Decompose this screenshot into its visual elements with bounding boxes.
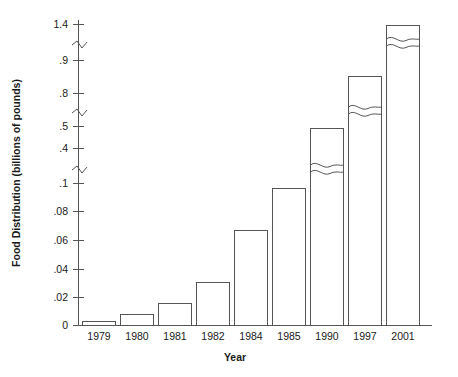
bar-1984[interactable] [235, 231, 268, 326]
y-tick-label-5: .5 [59, 120, 68, 132]
bar-chart: 0 .02 .04 .06 .08 .1 .4 .5 .8 .9 1.4 [0, 0, 458, 377]
x-label-1981: 1981 [163, 330, 187, 342]
x-label-1984: 1984 [239, 330, 263, 342]
y-tick-label-04: .04 [53, 263, 68, 275]
bar-1981[interactable] [159, 304, 192, 326]
x-label-1980: 1980 [125, 330, 149, 342]
bar-2001[interactable] [387, 26, 420, 326]
bar-1980[interactable] [121, 315, 154, 326]
y-tick-label-1: .1 [59, 177, 68, 189]
bar-2001-group [387, 26, 420, 326]
y-tick-label-4: .4 [59, 142, 68, 154]
chart-container: 0 .02 .04 .06 .08 .1 .4 .5 .8 .9 1.4 [0, 0, 458, 377]
axis-break-icon-2 [72, 109, 87, 116]
axis-break-icon-1 [72, 166, 87, 173]
bar-1979[interactable] [83, 322, 116, 326]
y-tick-label-06: .06 [53, 234, 68, 246]
y-tick-label-0: 0 [62, 319, 68, 331]
y-tick-label-9: .9 [59, 54, 68, 66]
bar-1990-group [311, 129, 344, 326]
x-label-1990: 1990 [315, 330, 339, 342]
y-tick-labels: 0 .02 .04 .06 .08 .1 .4 .5 .8 .9 1.4 [53, 18, 68, 331]
y-tick-label-8: .8 [59, 87, 68, 99]
y-tick-label-14: 1.4 [53, 18, 68, 30]
x-label-1985: 1985 [277, 330, 301, 342]
y-axis-title: Food Distribution (billions of pounds) [10, 79, 22, 267]
x-label-2001: 2001 [391, 330, 415, 342]
bar-1985[interactable] [273, 189, 306, 326]
bar-1990[interactable] [311, 129, 344, 326]
x-label-1979: 1979 [87, 330, 111, 342]
x-label-1997: 1997 [353, 330, 377, 342]
x-axis-title: Year [224, 351, 246, 363]
y-tick-label-08: .08 [53, 205, 68, 217]
x-tick-labels: 1979 1980 1981 1982 1984 1985 1990 1997 … [87, 330, 415, 342]
bar-1997-group [349, 77, 382, 326]
bars-group [83, 26, 420, 326]
axis-break-icon-3 [72, 41, 87, 48]
bar-1982[interactable] [197, 283, 230, 326]
y-tick-label-02: .02 [53, 291, 68, 303]
x-label-1982: 1982 [201, 330, 225, 342]
